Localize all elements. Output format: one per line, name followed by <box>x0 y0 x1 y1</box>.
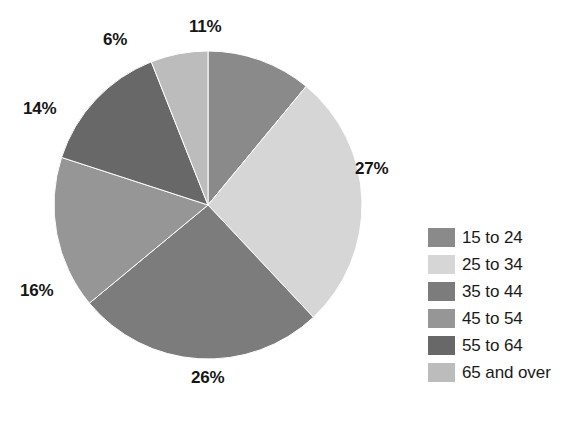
pie-chart-figure: 11% 27% 26% 16% 14% 6% 15 to 2425 to 343… <box>0 0 574 422</box>
legend-item[interactable]: 65 and over <box>428 359 570 386</box>
legend-item-label: 25 to 34 <box>462 256 523 273</box>
legend-color-swatch <box>428 282 455 301</box>
legend-item[interactable]: 25 to 34 <box>428 251 570 278</box>
slice-label-35-to-44: 26% <box>191 369 224 386</box>
legend-item[interactable]: 55 to 64 <box>428 332 570 359</box>
slice-label-15-to-24: 11% <box>189 18 222 35</box>
legend-color-swatch <box>428 363 455 382</box>
legend-item-label: 15 to 24 <box>462 229 523 246</box>
pie-slice-group <box>54 51 362 359</box>
slice-label-25-to-34: 27% <box>355 160 388 177</box>
legend-item[interactable]: 15 to 24 <box>428 224 570 251</box>
legend-item-label: 35 to 44 <box>462 283 523 300</box>
legend-color-swatch <box>428 255 455 274</box>
slice-label-45-to-54: 16% <box>20 282 53 299</box>
legend-item[interactable]: 45 to 54 <box>428 305 570 332</box>
legend-item[interactable]: 35 to 44 <box>428 278 570 305</box>
legend-color-swatch <box>428 336 455 355</box>
slice-label-55-to-64: 14% <box>23 100 56 117</box>
chart-legend: 15 to 2425 to 3435 to 4445 to 5455 to 64… <box>428 224 570 386</box>
legend-item-label: 65 and over <box>462 364 551 381</box>
legend-color-swatch <box>428 309 455 328</box>
pie-chart-plot-area <box>53 50 363 360</box>
legend-item-label: 45 to 54 <box>462 310 523 327</box>
legend-item-label: 55 to 64 <box>462 337 523 354</box>
legend-color-swatch <box>428 228 455 247</box>
pie-chart-svg <box>53 50 363 360</box>
slice-label-65-and-over: 6% <box>103 31 127 48</box>
